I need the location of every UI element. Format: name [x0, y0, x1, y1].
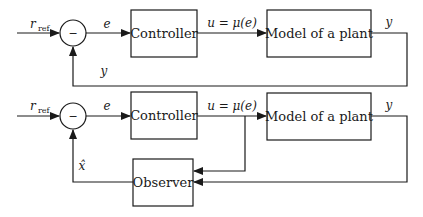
top-error-label: e [103, 17, 110, 31]
control-to-observer-wire [194, 116, 245, 171]
top-input-subscript: ref [38, 24, 51, 33]
estimate-feedback-wire [73, 130, 133, 182]
top-controller-label: Controller [130, 26, 198, 41]
top-loop: r ref − e Controller u = μ(e) Model of a… [17, 10, 407, 86]
bottom-output-label: y [385, 98, 393, 112]
bottom-control-label: u = μ(e) [207, 99, 257, 113]
top-plant-label: Model of a plant [265, 26, 374, 41]
top-output-label: y [385, 15, 393, 29]
bottom-input-subscript: ref [38, 106, 51, 115]
top-input-label: r [30, 17, 37, 31]
bottom-minus-sign: − [68, 110, 77, 123]
bottom-error-label: e [103, 99, 110, 113]
top-minus-sign: − [68, 27, 77, 40]
top-feedback-label: y [100, 64, 108, 78]
bottom-input-label: r [30, 99, 37, 113]
observer-label: Observer [133, 175, 195, 190]
bottom-controller-label: Controller [130, 108, 198, 123]
bottom-plant-label: Model of a plant [265, 109, 374, 124]
bottom-loop: r ref − e Controller u = μ(e) Model of a… [17, 92, 407, 206]
estimate-label: x̂ [79, 159, 86, 173]
block-diagram: r ref − e Controller u = μ(e) Model of a… [0, 0, 423, 217]
top-control-label: u = μ(e) [207, 16, 257, 30]
